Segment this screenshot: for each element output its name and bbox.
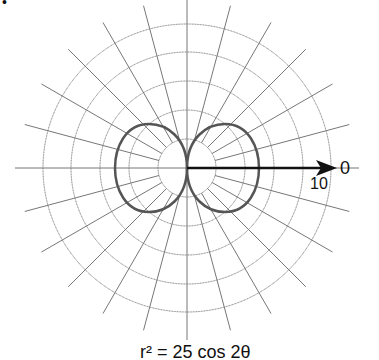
grid-spoke: [25, 176, 159, 212]
grid-spoke: [212, 84, 332, 154]
grid-spoke: [144, 6, 180, 140]
grid-spoke: [208, 189, 306, 287]
grid-spoke: [42, 183, 162, 253]
grid-spoke: [195, 6, 231, 140]
grid-spoke: [42, 84, 162, 154]
zero-angle-label: 0: [340, 158, 350, 179]
grid-spoke: [68, 49, 166, 147]
grid-spoke: [68, 189, 166, 287]
equation-label: r² = 25 cos 2θ: [140, 342, 251, 360]
grid-spoke: [208, 49, 306, 147]
corner-mark: •: [2, 0, 7, 10]
grid-spoke: [215, 176, 349, 212]
radius-tick-label: 10: [310, 175, 328, 193]
